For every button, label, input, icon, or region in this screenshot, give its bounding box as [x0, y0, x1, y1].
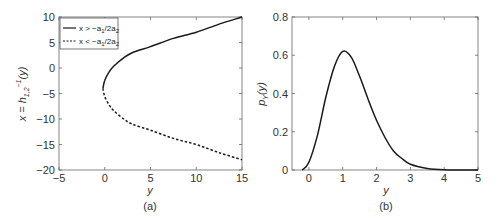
x-ticks-b: 012345 — [306, 17, 481, 184]
y-tick-label: 0.4 — [273, 88, 288, 100]
y-tick-label: −15 — [36, 139, 55, 151]
panel-b: 0.80.60.40.20 012345 y (b) pY(y) — [255, 11, 481, 212]
x-tick-label: 2 — [373, 172, 379, 184]
series-line — [103, 88, 242, 159]
legend-a: x > −a1/2a2 x < −a1/2a2 — [60, 18, 120, 49]
y-tick-label: 5 — [49, 37, 55, 49]
x-tick-label: 0 — [102, 172, 108, 184]
y-ticks-b: 0.80.60.40.20 — [273, 11, 478, 176]
curves-b — [302, 51, 478, 170]
x-tick-label: 5 — [147, 172, 153, 184]
y-axis-label-b: pY(y) — [255, 82, 269, 107]
series-line — [302, 51, 478, 170]
figure: 1050−5−10−15−20 −5051015 x > −a1/2a2 x <… — [0, 0, 499, 222]
y-tick-label: −5 — [42, 88, 55, 100]
caption-a: (a) — [143, 200, 156, 212]
y-tick-label: −10 — [36, 113, 55, 125]
caption-b: (b) — [379, 200, 392, 212]
x-tick-label: 3 — [407, 172, 413, 184]
svg-text:pY(y): pY(y) — [255, 82, 269, 107]
x-axis-label-b: y — [382, 184, 390, 196]
y-tick-label: 0.8 — [273, 11, 288, 23]
legend-entry-lower: x < −a1/2a2 — [79, 37, 120, 47]
x-tick-label: 10 — [190, 172, 202, 184]
series-line — [103, 17, 242, 88]
y-tick-label: 0.6 — [273, 49, 288, 61]
x-tick-label: 1 — [340, 172, 346, 184]
legend-entry-upper: x > −a1/2a2 — [79, 24, 120, 34]
x-axis-label-a: y — [146, 184, 154, 196]
y-axis-label-a: x = h1,2−1(y) — [15, 66, 30, 122]
plot-frame-b — [292, 17, 478, 170]
x-tick-label: 15 — [236, 172, 248, 184]
y-tick-label: 0 — [49, 62, 55, 74]
panel-a: 1050−5−10−15−20 −5051015 x > −a1/2a2 x <… — [15, 11, 248, 212]
x-tick-label: 5 — [475, 172, 481, 184]
x-tick-label: −5 — [53, 172, 66, 184]
svg-text:x = h1,2−1(y): x = h1,2−1(y) — [15, 66, 30, 122]
x-tick-label: 0 — [306, 172, 312, 184]
y-tick-label: 0.2 — [273, 126, 288, 138]
x-tick-label: 4 — [441, 172, 447, 184]
curves-a — [103, 17, 242, 160]
y-tick-label: 0 — [282, 164, 288, 176]
y-tick-label: 10 — [43, 11, 55, 23]
